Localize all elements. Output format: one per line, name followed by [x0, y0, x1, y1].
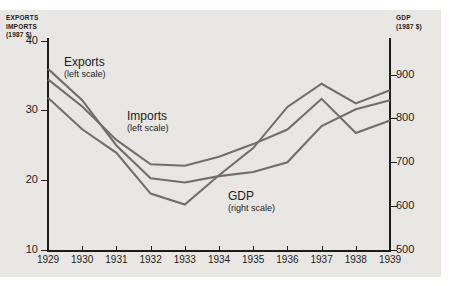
chart-figure: EXPORTS IMPORTS (1987 $) GDP (1987 $) 40… [0, 0, 449, 286]
series-annotation-exports-scale: (left scale) [64, 69, 106, 80]
series-line-exports [48, 69, 390, 183]
series-annotation-imports: Imports (left scale) [127, 110, 169, 134]
series-annotation-imports-name: Imports [127, 110, 169, 123]
series-annotation-exports-name: Exports [64, 56, 106, 69]
series-annotation-gdp-name: GDP [228, 190, 275, 203]
series-annotation-exports: Exports (left scale) [64, 56, 106, 80]
series-line-imports [48, 79, 390, 165]
series-annotation-imports-scale: (left scale) [127, 123, 169, 134]
series-annotation-gdp: GDP (right scale) [228, 190, 275, 214]
chart-lines-layer [0, 0, 449, 286]
series-line-gdp [48, 84, 390, 205]
series-annotation-gdp-scale: (right scale) [228, 203, 275, 214]
